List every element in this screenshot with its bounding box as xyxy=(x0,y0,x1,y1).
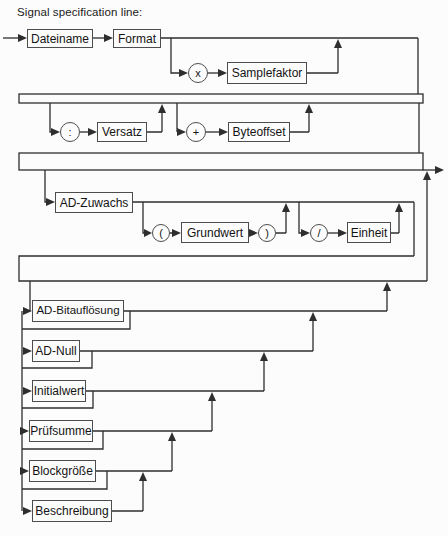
byteoffset-box: Byteoffset xyxy=(228,122,290,142)
grundwert-box: Grundwert xyxy=(181,222,249,243)
multiply-operator-circle: x xyxy=(188,63,208,83)
einheit-box: Einheit xyxy=(347,222,391,243)
ad-zuwachs-box: AD-Zuwachs xyxy=(55,192,133,213)
wrap-bar-3 xyxy=(19,256,427,281)
wrap-bar-2 xyxy=(19,153,423,170)
diagram-connectors xyxy=(0,0,448,536)
pruefsumme-box: Prüfsumme xyxy=(29,420,93,442)
slash-operator-circle: / xyxy=(310,224,328,242)
wrap-bar-1 xyxy=(19,94,423,103)
blockgroesse-box: Blockgröße xyxy=(29,460,96,482)
dateiname-box: Dateiname xyxy=(27,29,93,48)
close-paren-operator-circle: ) xyxy=(258,224,276,242)
plus-operator-circle: + xyxy=(186,122,206,142)
open-paren-operator-circle: ( xyxy=(152,224,170,242)
versatz-box: Versatz xyxy=(97,122,147,142)
ad-null-box: AD-Null xyxy=(32,340,80,362)
railroad-diagram-page: Signal specification line: xyxy=(0,0,448,536)
exit-wires xyxy=(423,166,444,281)
beschreibung-box: Beschreibung xyxy=(32,500,112,522)
initialwert-box: Initialwert xyxy=(32,380,86,402)
colon-operator-circle: : xyxy=(60,122,80,142)
samplefaktor-box: Samplefaktor xyxy=(227,62,307,84)
row3-wires xyxy=(45,170,414,256)
format-box: Format xyxy=(113,29,161,48)
ad-bitaufloesung-box: AD-Bitauflösung xyxy=(32,300,124,322)
